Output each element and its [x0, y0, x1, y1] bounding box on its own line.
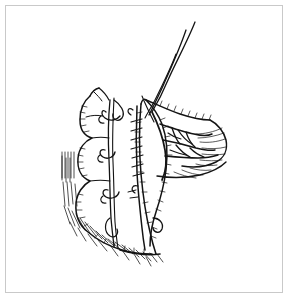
figure-frame	[0, 0, 289, 299]
suture-thread-long-b	[149, 30, 186, 115]
running-suture-line	[128, 106, 145, 250]
suture-thread-long-a	[152, 22, 195, 112]
mesentery-fan	[146, 100, 227, 180]
hatched-shading	[62, 152, 163, 266]
surgical-illustration	[0, 0, 289, 299]
suture-thread-long-c	[145, 54, 176, 118]
upper-fold-detail	[94, 88, 109, 101]
